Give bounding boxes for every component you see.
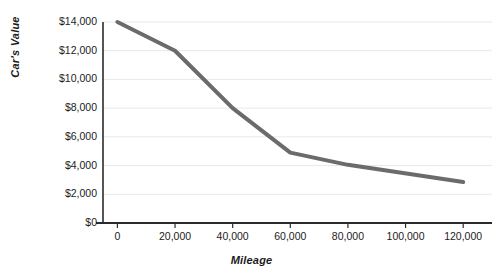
line-chart: $0$2,000$4,000$6,000$8,000$10,000$12,000… (0, 0, 503, 279)
y-axis-tick-label: $12,000 (31, 44, 97, 56)
y-axis-tick-label: $14,000 (31, 15, 97, 27)
y-axis-tick-label: $0 (31, 216, 97, 228)
data-series-line (117, 22, 463, 182)
x-axis-title: Mileage (0, 254, 503, 266)
gridlines (103, 22, 492, 194)
x-axis-tick-label: 120,000 (423, 230, 503, 242)
y-axis-tick-label: $10,000 (31, 72, 97, 84)
y-axis-title: Car's Value (9, 2, 21, 92)
y-axis-tick-label: $2,000 (31, 187, 97, 199)
y-axis-tick-label: $4,000 (31, 159, 97, 171)
y-axis-tick-label: $6,000 (31, 130, 97, 142)
y-axis-tick-label: $8,000 (31, 101, 97, 113)
